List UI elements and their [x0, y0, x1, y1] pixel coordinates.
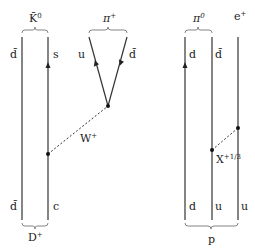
kbar0-brace: [22, 27, 48, 33]
w-vertex-bottom: [46, 152, 50, 156]
dbar-top-label-right: d̄: [215, 48, 222, 61]
w-vertex-top: [106, 104, 110, 108]
x-boson-propagator: [212, 128, 238, 150]
dbar-quark-leg: [108, 37, 127, 106]
piplus-label: π+: [102, 12, 116, 25]
positron-label: e+: [234, 10, 247, 23]
d-bottom-label: d: [189, 200, 196, 213]
feynman-diagrams: K̄0 d̄ d̄ s c D+ π+ u d̄ W+ π0: [0, 0, 255, 252]
left-diagram: K̄0 d̄ d̄ s c D+ π+ u d̄ W+: [10, 12, 136, 244]
u-bottom-label-1: u: [215, 200, 222, 213]
dbar-bottom-label: d̄: [10, 200, 17, 213]
w-boson-propagator: [48, 106, 108, 154]
d-top-label: d: [189, 48, 196, 61]
s-label: s: [53, 48, 59, 61]
w-label: W+: [80, 132, 97, 145]
proton-label: p: [208, 233, 215, 246]
dplus-label: D+: [28, 231, 43, 244]
x-vertex-bottom: [210, 148, 214, 152]
dbar-top-label: d̄: [10, 48, 17, 61]
pi0-brace: [185, 27, 212, 33]
u-label: u: [78, 48, 85, 61]
d-arrow-up-icon: [183, 62, 188, 68]
x-vertex-top: [236, 126, 240, 130]
dplus-brace: [22, 223, 48, 229]
dbar-arrow-down-icon: [117, 59, 124, 66]
piplus-brace: [89, 27, 127, 33]
kbar0-label: K̄0: [29, 12, 42, 25]
x-label: X+1/3: [216, 153, 241, 166]
right-diagram: π0 d d d̄ u e+ u X+1/3 p: [183, 10, 249, 246]
c-label: c: [53, 200, 59, 213]
dbar-leg-label: d̄: [129, 48, 136, 61]
s-arrow-up-icon: [46, 62, 51, 68]
u-quark-leg: [89, 37, 108, 106]
u-bottom-label-2: u: [241, 200, 248, 213]
proton-brace: [185, 223, 238, 229]
pi0-label: π0: [192, 12, 205, 25]
